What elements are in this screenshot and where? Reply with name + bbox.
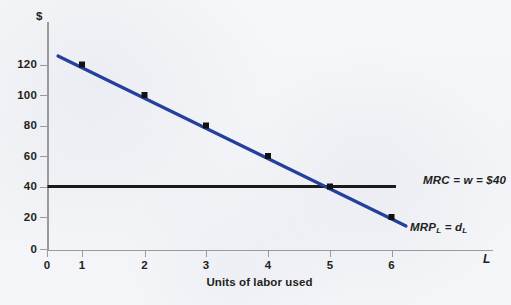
mrc-curve-label: MRC = w = $40 [423, 174, 506, 186]
mrp-label-main: MRP [410, 221, 436, 233]
data-point-1-120 [79, 62, 85, 68]
plot-area [0, 0, 511, 305]
data-point-2-100 [142, 92, 148, 98]
mrp-label-sub-1: L [436, 226, 441, 235]
data-point-4-60 [265, 153, 271, 159]
data-point-3-80 [203, 123, 209, 129]
data-point-5-40 [327, 184, 333, 190]
mrp-label-mid: = d [441, 221, 462, 233]
data-point-6-20 [389, 214, 395, 220]
mrp-line [58, 56, 406, 226]
mrp-label-sub-2: L [462, 226, 467, 235]
labor-demand-chart: $ L Units of labor used 120 100 80 60 40… [0, 0, 511, 305]
mrp-curve-label: MRPL = dL [410, 221, 467, 233]
